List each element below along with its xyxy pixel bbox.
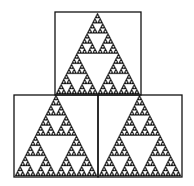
sierpinski-triangle [99, 95, 181, 176]
sierpinski-triangle [15, 95, 97, 176]
bottom-right-panel [98, 95, 182, 177]
sierpinski-triangle [56, 13, 140, 94]
panels-group [14, 12, 182, 177]
bottom-left-panel [14, 95, 98, 177]
sierpinski-diagram [0, 0, 194, 186]
top-panel [55, 12, 141, 95]
